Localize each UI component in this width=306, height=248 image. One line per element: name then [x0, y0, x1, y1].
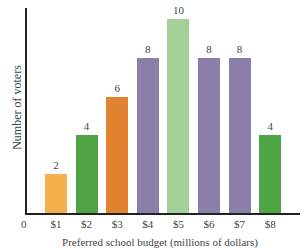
x-tick-label: $7 [225, 218, 255, 230]
y-axis-label: Number of voters [10, 53, 25, 163]
bar-5 [167, 19, 189, 213]
bar-value-label: 10 [163, 4, 193, 16]
x-axis-line [25, 213, 300, 215]
bar-value-label: 4 [255, 120, 285, 132]
x-tick-label: $2 [72, 218, 102, 230]
bar-3 [106, 97, 128, 213]
x-axis-label: Preferred school budget (millions of dol… [40, 236, 280, 248]
bar-1 [45, 174, 67, 213]
bar-8 [259, 135, 281, 213]
bar-value-label: 6 [102, 82, 132, 94]
x-tick-label: $6 [194, 218, 224, 230]
bar-value-label: 2 [41, 159, 71, 171]
y-axis-line [25, 8, 27, 214]
x-tick-label: $8 [255, 218, 285, 230]
bar-2 [76, 135, 98, 213]
x-tick-label: $5 [163, 218, 193, 230]
x-tick-label: $3 [102, 218, 132, 230]
x-tick-label: $4 [133, 218, 163, 230]
origin-label: 0 [21, 218, 27, 230]
bar-value-label: 8 [225, 43, 255, 55]
bar-value-label: 8 [194, 43, 224, 55]
bar-4 [137, 58, 159, 213]
x-tick-label: $1 [41, 218, 71, 230]
bar-6 [198, 58, 220, 213]
bar-value-label: 4 [72, 120, 102, 132]
bar-value-label: 8 [133, 43, 163, 55]
bar-7 [229, 58, 251, 213]
